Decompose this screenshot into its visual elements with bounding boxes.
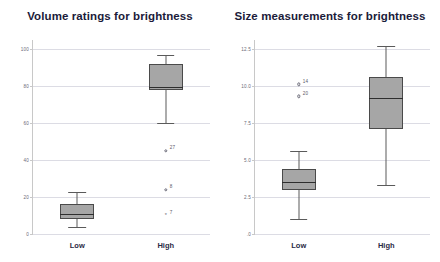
lower-whisker: [165, 90, 166, 123]
y-axis-tick-label: 40: [23, 158, 29, 163]
upper-whisker-cap: [157, 55, 175, 56]
box-iqr: [60, 204, 94, 219]
lower-whisker: [386, 129, 387, 185]
y-axis-tick-label: 20: [23, 195, 29, 200]
outlier-marker: [164, 188, 167, 191]
gridline: [33, 160, 210, 161]
y-axis-tick-mark: [252, 160, 255, 161]
y-axis-tick-mark: [252, 49, 255, 50]
box-iqr: [282, 169, 316, 190]
box-iqr: [369, 77, 403, 129]
gridline: [33, 49, 210, 50]
panel-volume-ratings: Volume ratings for brightness 0204060801…: [0, 0, 220, 262]
median-line: [149, 87, 183, 88]
lower-whisker-cap: [68, 227, 86, 228]
y-axis-tick-mark: [30, 123, 33, 124]
gridline: [255, 123, 430, 124]
panel-size-measurements: Size measurements for brightness .02.55.…: [220, 0, 440, 262]
gridline: [255, 160, 430, 161]
gridline: [33, 197, 210, 198]
y-axis-tick-label: 80: [23, 84, 29, 89]
y-axis-tick-mark: [30, 86, 33, 87]
gridline: [255, 197, 430, 198]
upper-whisker: [298, 151, 299, 169]
y-axis-tick-mark: [30, 49, 33, 50]
outlier-label: 7: [170, 210, 173, 215]
gridline: [255, 234, 430, 235]
gridline: [255, 49, 430, 50]
y-axis-tick-label: 100: [21, 47, 29, 52]
x-axis-tick-label: Low: [291, 241, 306, 250]
median-line: [369, 98, 403, 99]
box-iqr: [149, 64, 183, 90]
y-axis-tick-label: 2.5: [244, 194, 251, 199]
y-axis-tick-label: 12.5: [241, 46, 251, 51]
outlier-label: 14: [303, 78, 308, 83]
upper-whisker-cap: [290, 151, 308, 152]
plot-area-left: 020406080100LowHigh278*7: [32, 40, 210, 235]
y-axis-tick-mark: [252, 123, 255, 124]
lower-whisker: [77, 219, 78, 226]
lower-whisker: [298, 190, 299, 220]
y-axis-tick-label: 0: [26, 232, 29, 237]
y-axis-tick-mark: [252, 234, 255, 235]
outlier-marker: [297, 95, 300, 98]
y-axis-tick-label: 7.5: [244, 120, 251, 125]
outlier-label: 8: [170, 184, 173, 189]
y-axis-tick-mark: [30, 197, 33, 198]
y-axis-tick-label: 5.0: [244, 157, 251, 162]
gridline: [255, 86, 430, 87]
panel-title-left: Volume ratings for brightness: [0, 10, 220, 22]
upper-whisker: [386, 46, 387, 77]
gridline: [33, 123, 210, 124]
outlier-label: 27: [170, 145, 175, 150]
gridline: [33, 86, 210, 87]
boxplot-figure: Volume ratings for brightness 0204060801…: [0, 0, 440, 262]
panel-title-right: Size measurements for brightness: [220, 10, 440, 22]
outlier-marker: [164, 149, 167, 152]
plot-area-right: .02.55.07.510.012.5LowHigh1420: [254, 40, 430, 235]
median-line: [60, 214, 94, 215]
y-axis-tick-mark: [30, 234, 33, 235]
y-axis-tick-label: .0: [247, 232, 251, 237]
upper-whisker: [165, 55, 166, 64]
lower-whisker-cap: [157, 123, 175, 124]
y-axis-tick-mark: [252, 86, 255, 87]
upper-whisker-cap: [68, 192, 86, 193]
y-axis-tick-mark: [30, 160, 33, 161]
x-axis-tick-label: High: [157, 241, 174, 250]
y-axis-tick-label: 60: [23, 121, 29, 126]
median-line: [282, 182, 316, 183]
upper-whisker: [77, 192, 78, 205]
upper-whisker-cap: [377, 46, 395, 47]
y-axis-tick-mark: [252, 197, 255, 198]
extreme-outlier-marker: *: [165, 213, 167, 219]
lower-whisker-cap: [377, 185, 395, 186]
x-axis-tick-label: High: [378, 241, 395, 250]
x-axis-tick-label: Low: [70, 241, 85, 250]
lower-whisker-cap: [290, 219, 308, 220]
gridline: [33, 234, 210, 235]
outlier-label: 20: [303, 90, 308, 95]
y-axis-tick-label: 10.0: [241, 83, 251, 88]
